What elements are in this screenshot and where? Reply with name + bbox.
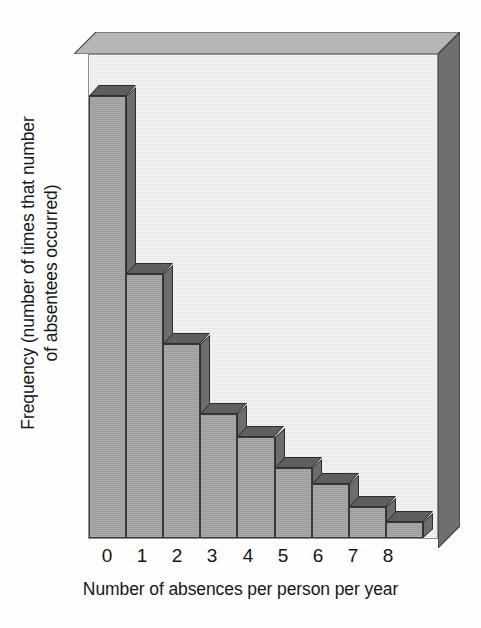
bar-front-face [386, 522, 423, 538]
histogram-figure: Frequency (number of times that number o… [0, 0, 481, 628]
bar-2 [163, 344, 200, 538]
bars-container [89, 55, 437, 538]
y-axis-label-line-1: Frequency (number of times that number [17, 23, 40, 523]
x-tick-label-3: 3 [194, 544, 230, 568]
y-axis-label: Frequency (number of times that number o… [17, 23, 63, 523]
bar-front-face [126, 274, 163, 538]
bar-front-face [237, 437, 274, 538]
x-axis-label: Number of absences per person per year [0, 579, 481, 600]
x-tick-label-2: 2 [159, 544, 195, 568]
bar-front-face [89, 96, 126, 538]
bar-1 [126, 274, 163, 538]
bar-7 [349, 507, 386, 538]
bar-6 [312, 484, 349, 538]
bar-front-face [275, 468, 312, 538]
x-tick-label-8: 8 [370, 544, 406, 568]
bar-3 [200, 414, 237, 538]
x-tick-label-4: 4 [230, 544, 266, 568]
y-axis-label-line-2: of absentees occurred) [40, 23, 63, 523]
bar-front-face [200, 414, 237, 538]
chart-3d-box [74, 32, 460, 548]
bar-front-face [163, 344, 200, 538]
bar-front-face [312, 484, 349, 538]
x-tick-label-5: 5 [265, 544, 301, 568]
x-tick-label-6: 6 [300, 544, 336, 568]
x-tick-label-1: 1 [124, 544, 160, 568]
bar-0 [89, 96, 126, 538]
bar-5 [275, 468, 312, 538]
box-top-face-icon [74, 32, 460, 54]
bar-8 [386, 522, 423, 538]
box-right-face-icon [438, 32, 460, 548]
bar-4 [237, 437, 274, 538]
bar-front-face [349, 507, 386, 538]
x-tick-label-0: 0 [89, 544, 125, 568]
x-axis-tick-labels: 012345678 [89, 544, 416, 570]
y-axis-label-wrapper: Frequency (number of times that number o… [0, 0, 80, 560]
x-tick-label-7: 7 [335, 544, 371, 568]
